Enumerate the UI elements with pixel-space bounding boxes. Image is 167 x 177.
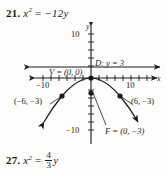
right-latus-point — [117, 93, 122, 98]
left-latus-point — [59, 93, 64, 98]
right-point-label: (6, −3) — [131, 96, 154, 106]
focus-point — [88, 90, 93, 95]
focus-label: F = (0, −3) — [105, 126, 144, 136]
focus-leader-line — [93, 93, 106, 125]
fraction-numerator: 4 — [45, 151, 52, 160]
x-tick-label-10: 10 — [126, 80, 135, 90]
exercise-27-variable: y — [53, 154, 58, 166]
exercise-27-number: 27. — [6, 154, 20, 166]
exercise-21-exponent: 2 — [28, 6, 32, 14]
exercise-21-number: 21. — [6, 7, 20, 19]
exercise-27-equation: 27. x2 = 4 3 y — [6, 152, 58, 172]
y-tick-label-neg10: −10 — [66, 125, 79, 135]
vertex-point — [88, 75, 93, 80]
exercise-21-equation: 21. x2 = −12y — [6, 6, 69, 19]
directrix-label: D: y = 3 — [95, 58, 124, 68]
x-axis-name: x — [157, 74, 161, 83]
exercise-27-exponent: 2 — [28, 154, 32, 162]
fraction-denominator: 3 — [45, 160, 52, 170]
y-tick-label-10: 10 — [71, 29, 80, 39]
exercise-21-relation: = — [35, 7, 41, 19]
left-point-label: (−6, −3) — [14, 96, 42, 106]
exercise-27-relation: = — [35, 154, 41, 166]
exercise-27-fraction: 4 3 — [45, 151, 52, 171]
x-tick-label-neg10: −10 — [36, 80, 49, 90]
parabola-figure: y x 10 −10 −10 10 D: y = 3 V = (0, 0) F … — [0, 22, 167, 147]
y-axis-name: y — [86, 22, 90, 31]
vertex-label: V = (0, 0) — [49, 67, 82, 77]
exercise-21-rhs: −12y — [44, 7, 68, 19]
figure-page: 21. x2 = −12y — [0, 0, 167, 177]
